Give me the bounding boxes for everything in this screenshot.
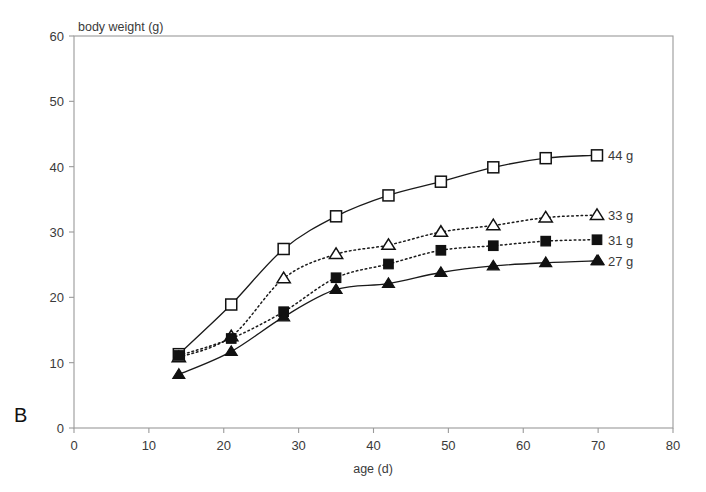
data-point-marker (436, 246, 446, 256)
x-tick-label: 80 (666, 438, 680, 453)
x-tick-label: 70 (591, 438, 605, 453)
data-point-marker (174, 351, 184, 361)
y-tick-label: 20 (50, 290, 64, 305)
data-point-marker (331, 273, 341, 283)
y-tick-label: 30 (50, 225, 64, 240)
data-point-marker (278, 243, 289, 254)
y-tick-label: 0 (57, 421, 64, 436)
y-tick-label: 10 (50, 356, 64, 371)
chart-canvas: 01020304050607080 0102030405060 body wei… (0, 0, 706, 492)
data-point-marker (435, 176, 446, 187)
data-point-marker (383, 190, 394, 201)
legend-label: 44 g (608, 148, 633, 163)
x-axis-title: age (d) (353, 462, 393, 476)
legend-marker (592, 235, 602, 245)
y-axis-title: body weight (g) (78, 20, 163, 34)
data-point-marker (226, 299, 237, 310)
x-tick-label: 10 (142, 438, 156, 453)
data-point-marker (488, 162, 499, 173)
x-tick-label: 30 (291, 438, 305, 453)
legend-label: 31 g (608, 233, 633, 248)
data-point-marker (384, 259, 394, 269)
x-tick-label: 60 (516, 438, 530, 453)
legend-marker (592, 150, 603, 161)
y-tick-label: 40 (50, 160, 64, 175)
data-point-marker (540, 153, 551, 164)
panel-label: B (14, 404, 27, 427)
legend-label: 33 g (608, 208, 633, 223)
x-tick-label: 20 (217, 438, 231, 453)
figure-panel-b: B 01020304050607080 0102030405060 body w… (0, 0, 706, 492)
x-tick-label: 40 (366, 438, 380, 453)
data-point-marker (331, 211, 342, 222)
x-tick-label: 50 (441, 438, 455, 453)
data-point-marker (489, 241, 499, 251)
x-tick-label: 0 (70, 438, 77, 453)
y-tick-label: 60 (50, 29, 64, 44)
data-point-marker (226, 334, 236, 344)
chart-background (0, 0, 706, 492)
data-point-marker (541, 236, 551, 246)
legend-label: 27 g (608, 254, 633, 269)
y-tick-label: 50 (50, 94, 64, 109)
